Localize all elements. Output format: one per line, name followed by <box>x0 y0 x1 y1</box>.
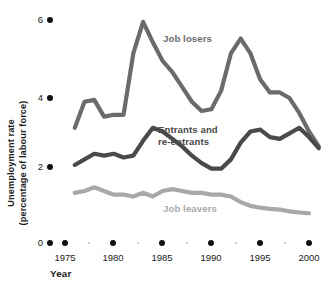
series-label-entrants: Entrants and re-entrants <box>158 124 218 147</box>
series-label-job-losers: Job losers <box>163 33 212 45</box>
series-label-job-losers-text: Job losers <box>163 33 212 44</box>
series-label-entrants-line2: re-entrants <box>158 136 218 148</box>
series-label-job-leavers: Job leavers <box>163 203 217 215</box>
series-label-entrants-line1: Entrants and <box>158 124 218 136</box>
series-label-job-leavers-text: Job leavers <box>163 203 217 214</box>
unemployment-rate-chart: Unemployment rate (percentage of labour … <box>0 0 332 287</box>
